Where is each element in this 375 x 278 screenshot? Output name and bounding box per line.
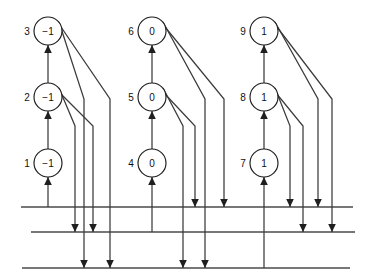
arrowhead-down-bus-bottom-x110 <box>106 260 114 268</box>
arrowhead-up-into-node-4 <box>148 177 156 185</box>
node-value-6: 0 <box>149 26 155 37</box>
out-node-5-to-bus-top-a <box>164 93 195 207</box>
arrowhead-up-into-node-6 <box>148 45 156 53</box>
node-value-4: 0 <box>149 158 155 169</box>
node-2[interactable]: −12 <box>24 83 62 111</box>
arrowhead-down-bus-bottom-x84 <box>80 260 88 268</box>
node-index-label-4: 4 <box>128 158 134 169</box>
out-node-2-to-bus-middle-b <box>60 93 93 232</box>
node-value-1: −1 <box>42 158 54 169</box>
node-3[interactable]: −13 <box>24 17 62 45</box>
arrowhead-down-bus-middle-x75 <box>71 224 79 232</box>
node-index-label-5: 5 <box>128 92 134 103</box>
node-index-label-3: 3 <box>24 26 30 37</box>
arrowhead-down-bus-bottom-x183 <box>179 260 187 268</box>
arrowhead-up-into-node-9 <box>260 45 268 53</box>
arrowhead-down-bus-top-x224 <box>220 199 228 207</box>
node-index-label-8: 8 <box>240 92 246 103</box>
out-node-3-to-bus-bottom-a <box>59 22 84 268</box>
node-index-label-1: 1 <box>24 158 30 169</box>
out-node-5-to-bus-bottom-a <box>163 88 183 268</box>
arrowhead-down-bus-top-x195 <box>191 199 199 207</box>
out-node-9-to-bus-middle-b <box>277 27 332 232</box>
node-index-label-7: 7 <box>240 158 246 169</box>
bus-feed-edges-group <box>48 177 264 268</box>
arrowhead-down-bus-top-x290 <box>286 199 294 207</box>
arrowhead-down-bus-bottom-x205 <box>201 260 209 268</box>
node-4[interactable]: 04 <box>128 149 166 177</box>
node-6[interactable]: 06 <box>128 17 166 45</box>
arrowhead-down-bus-middle-x332 <box>328 224 336 232</box>
nodes-group: −11−12−13040506171819 <box>24 17 278 177</box>
node-1[interactable]: −11 <box>24 149 62 177</box>
node-5[interactable]: 05 <box>128 83 166 111</box>
arrowhead-up-into-node-1 <box>44 177 52 185</box>
arrowhead-down-bus-middle-x93 <box>89 224 97 232</box>
out-node-8-to-bus-top-a <box>275 88 290 207</box>
arrowhead-up-into-node-8 <box>260 111 268 119</box>
node-value-3: −1 <box>42 26 54 37</box>
arrowhead-up-into-node-5 <box>148 111 156 119</box>
down-arrowheads-group <box>71 199 336 268</box>
diagram-canvas: −11−12−13040506171819 <box>0 0 375 278</box>
node-value-9: 1 <box>261 26 267 37</box>
node-index-label-9: 9 <box>240 26 246 37</box>
arrowhead-down-bus-middle-x303 <box>299 224 307 232</box>
node-8[interactable]: 18 <box>240 83 278 111</box>
node-index-label-2: 2 <box>24 92 30 103</box>
node-value-8: 1 <box>261 92 267 103</box>
graph-diagram: −11−12−13040506171819 <box>0 0 375 278</box>
node-value-2: −1 <box>42 92 54 103</box>
node-value-5: 0 <box>149 92 155 103</box>
node-index-label-6: 6 <box>128 26 134 37</box>
node-7[interactable]: 17 <box>240 149 278 177</box>
node-value-7: 1 <box>261 158 267 169</box>
node-9[interactable]: 19 <box>240 17 278 45</box>
arrowhead-down-bus-top-x318 <box>314 199 322 207</box>
bus-lines-group <box>21 207 355 268</box>
diagonal-edges-group <box>59 22 332 268</box>
arrowhead-up-into-node-2 <box>44 111 52 119</box>
out-node-6-to-bus-bottom-b <box>163 22 205 268</box>
out-node-9-to-bus-top-b <box>275 22 318 207</box>
arrowhead-up-into-node-7 <box>260 177 268 185</box>
arrowhead-up-into-node-3 <box>44 45 52 53</box>
